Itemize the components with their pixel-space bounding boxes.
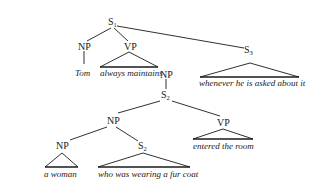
triangle-np-woman	[45, 153, 78, 167]
edge-s2-np	[118, 101, 160, 113]
node-s3: S3	[244, 44, 253, 56]
leaf-tom: Tom	[75, 68, 91, 78]
edge-np-s2rel	[116, 127, 138, 141]
triangle-vp-entered	[193, 129, 253, 139]
node-s1: S1	[108, 16, 117, 28]
syntax-tree-diagram: S1 NP VP S3 NP S2 NP VP NP S2 Tom always…	[0, 0, 316, 188]
node-s2-clause: S2	[161, 89, 170, 101]
node-vp-entered: VP	[217, 117, 230, 128]
leaf-entered-the-room: entered the room	[193, 141, 254, 151]
node-vp-main: VP	[124, 41, 137, 52]
edge-s1-vp	[114, 28, 128, 41]
leaf-who-was-wearing: who was wearing a fur coat	[98, 169, 199, 179]
edge-s2-vp	[172, 101, 220, 116]
leaf-always-maintains: always maintains	[100, 68, 163, 78]
triangle-s2-rel	[98, 153, 190, 167]
edge-np-np	[70, 127, 107, 140]
leaf-a-woman: a woman	[44, 169, 77, 179]
node-np-subj: NP	[107, 115, 120, 126]
triangle-vp	[100, 52, 158, 67]
triangle-s3	[200, 63, 299, 77]
node-np-woman: NP	[56, 140, 69, 151]
leaf-whenever: whenever he is asked about it	[199, 78, 306, 88]
edge-s1-np	[87, 28, 111, 41]
node-np-tom: NP	[78, 41, 91, 52]
node-s2-rel: S2	[138, 140, 147, 152]
